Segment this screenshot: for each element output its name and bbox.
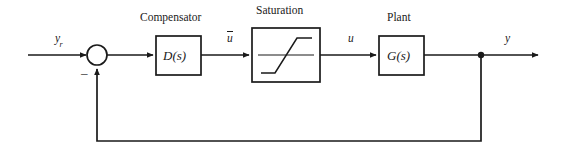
plant-transfer-function: G(s) bbox=[387, 49, 410, 62]
output-takeoff-node bbox=[478, 52, 484, 58]
feedback-negative-sign: – bbox=[81, 66, 88, 79]
presat-control-signal-label: u bbox=[227, 33, 233, 45]
reference-signal-subscript: r bbox=[60, 40, 63, 49]
presat-control-signal-base: u bbox=[227, 32, 233, 44]
compensator-title: Compensator bbox=[140, 12, 201, 24]
summing-junction bbox=[87, 45, 107, 65]
block-diagram-canvas: Compensator Saturation Plant D(s) G(s) y… bbox=[0, 0, 565, 154]
output-signal-label: y bbox=[505, 33, 510, 45]
overbar-glyph bbox=[227, 31, 233, 32]
compensator-transfer-function: D(s) bbox=[163, 49, 186, 62]
reference-signal-label: yr bbox=[55, 33, 63, 47]
postsat-control-signal-label: u bbox=[348, 33, 354, 45]
plant-title: Plant bbox=[387, 12, 411, 24]
saturation-title: Saturation bbox=[256, 5, 303, 17]
